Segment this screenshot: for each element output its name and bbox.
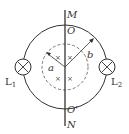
field-cross: × (67, 75, 73, 83)
label-m: M (66, 9, 78, 20)
circuit-diagram: × × × × M O O' N a b L1 L2 (0, 0, 129, 134)
lamp-l2-icon (99, 59, 115, 75)
label-l1: L1 (5, 76, 16, 89)
label-l2: L2 (111, 76, 122, 89)
label-o: O (67, 25, 75, 36)
label-o-prime: O' (67, 104, 78, 115)
field-cross: × (55, 75, 61, 83)
field-cross: × (67, 54, 73, 62)
label-b: b (87, 49, 93, 60)
label-n: N (66, 119, 77, 130)
lamp-l1-icon (15, 59, 31, 75)
label-a: a (48, 62, 54, 73)
field-cross: × (55, 54, 61, 62)
